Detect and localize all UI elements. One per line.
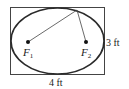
focus-point-1 [26,40,30,44]
focus-label-1: F1 [22,46,34,60]
focus-point-2 [84,40,88,44]
focal-line-1 [28,10,77,42]
height-label: 3 ft [106,37,120,48]
width-label: 4 ft [49,77,63,88]
ellipse-diagram: F1 F2 3 ft 4 ft [0,0,129,89]
focus-label-2: F2 [80,46,92,60]
ellipse [11,8,104,74]
